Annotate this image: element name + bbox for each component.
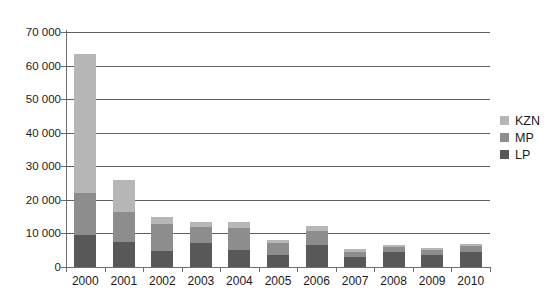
- bar-segment-lp-2004[interactable]: [228, 250, 250, 267]
- legend-item-lp[interactable]: LP: [500, 146, 555, 163]
- x-tick-label-2001: 2001: [102, 274, 146, 288]
- y-tick-mark: [61, 233, 66, 234]
- bar-2005[interactable]: [267, 32, 289, 267]
- bar-segment-mp-2005[interactable]: [267, 243, 289, 255]
- bar-segment-kzn-2007[interactable]: [344, 249, 366, 252]
- bar-segment-lp-2003[interactable]: [190, 243, 212, 267]
- y-tick-label: 10 000: [0, 227, 61, 239]
- x-tick-label-2005: 2005: [256, 274, 300, 288]
- bar-2000[interactable]: [74, 32, 96, 267]
- bar-segment-kzn-2009[interactable]: [421, 248, 443, 250]
- bar-segment-kzn-2005[interactable]: [267, 240, 289, 243]
- x-tick-mark: [259, 267, 260, 272]
- x-tick-mark: [182, 267, 183, 272]
- bar-segment-mp-2006[interactable]: [306, 231, 328, 245]
- bar-segment-lp-2001[interactable]: [113, 242, 135, 267]
- x-tick-mark: [451, 267, 452, 272]
- bar-segment-lp-2006[interactable]: [306, 245, 328, 267]
- bar-segment-lp-2005[interactable]: [267, 255, 289, 267]
- bar-segment-kzn-2002[interactable]: [151, 217, 173, 225]
- x-tick-mark: [220, 267, 221, 272]
- legend-swatch-mp: [500, 133, 509, 142]
- y-tick-label: 20 000: [0, 194, 61, 206]
- x-tick-mark: [143, 267, 144, 272]
- x-tick-mark: [490, 267, 491, 272]
- bar-segment-kzn-2010[interactable]: [460, 244, 482, 247]
- y-tick-mark: [61, 166, 66, 167]
- y-tick-label: 60 000: [0, 60, 61, 72]
- bar-segment-lp-2009[interactable]: [421, 255, 443, 267]
- x-tick-label-2003: 2003: [179, 274, 223, 288]
- x-tick-label-2009: 2009: [410, 274, 454, 288]
- y-tick-mark: [61, 99, 66, 100]
- bar-2006[interactable]: [306, 32, 328, 267]
- x-tick-label-2006: 2006: [295, 274, 339, 288]
- legend-label-lp: LP: [515, 148, 530, 162]
- gridline: [66, 267, 490, 268]
- x-tick-label-2000: 2000: [63, 274, 107, 288]
- bar-segment-kzn-2001[interactable]: [113, 180, 135, 212]
- bar-segment-lp-2002[interactable]: [151, 251, 173, 267]
- bar-2009[interactable]: [421, 32, 443, 267]
- y-tick-label: 0: [0, 261, 61, 273]
- bar-segment-lp-2010[interactable]: [460, 252, 482, 267]
- bar-2001[interactable]: [113, 32, 135, 267]
- legend-swatch-kzn: [500, 116, 509, 125]
- x-tick-label-2010: 2010: [449, 274, 493, 288]
- y-tick-label: 30 000: [0, 160, 61, 172]
- bar-2010[interactable]: [460, 32, 482, 267]
- x-tick-mark: [413, 267, 414, 272]
- y-tick-mark: [61, 66, 66, 67]
- legend-label-kzn: KZN: [515, 114, 540, 128]
- x-tick-mark: [374, 267, 375, 272]
- bar-segment-mp-2007[interactable]: [344, 252, 366, 257]
- bar-segment-kzn-2006[interactable]: [306, 226, 328, 231]
- plot-area: [66, 32, 490, 267]
- bar-segment-kzn-2003[interactable]: [190, 222, 212, 228]
- bar-segment-lp-2000[interactable]: [74, 235, 96, 267]
- y-tick-label: 50 000: [0, 93, 61, 105]
- bar-segment-lp-2008[interactable]: [383, 252, 405, 267]
- x-tick-label-2007: 2007: [333, 274, 377, 288]
- legend-item-kzn[interactable]: KZN: [500, 112, 555, 129]
- bar-segment-mp-2003[interactable]: [190, 227, 212, 242]
- bar-segment-mp-2001[interactable]: [113, 212, 135, 242]
- bar-segment-mp-2008[interactable]: [383, 247, 405, 252]
- y-tick-mark: [61, 133, 66, 134]
- y-tick-mark: [61, 200, 66, 201]
- legend-swatch-lp: [500, 150, 509, 159]
- bar-segment-mp-2009[interactable]: [421, 250, 443, 255]
- bar-2003[interactable]: [190, 32, 212, 267]
- bar-2008[interactable]: [383, 32, 405, 267]
- legend-item-mp[interactable]: MP: [500, 129, 555, 146]
- bar-segment-lp-2007[interactable]: [344, 257, 366, 267]
- stacked-bar-chart: 010 00020 00030 00040 00050 00060 00070 …: [0, 0, 555, 306]
- bar-segment-mp-2000[interactable]: [74, 193, 96, 235]
- bar-segment-kzn-2008[interactable]: [383, 245, 405, 248]
- x-tick-label-2002: 2002: [140, 274, 184, 288]
- y-tick-label: 40 000: [0, 127, 61, 139]
- x-tick-label-2008: 2008: [372, 274, 416, 288]
- y-tick-label: 70 000: [0, 26, 61, 38]
- x-tick-label-2004: 2004: [217, 274, 261, 288]
- bar-segment-mp-2010[interactable]: [460, 246, 482, 252]
- x-tick-mark: [66, 267, 67, 272]
- chart-legend: KZNMPLP: [500, 112, 555, 163]
- y-tick-mark: [61, 32, 66, 33]
- bar-segment-mp-2002[interactable]: [151, 224, 173, 250]
- bar-segment-mp-2004[interactable]: [228, 228, 250, 250]
- bar-2002[interactable]: [151, 32, 173, 267]
- bar-2007[interactable]: [344, 32, 366, 267]
- x-tick-mark: [336, 267, 337, 272]
- x-tick-mark: [105, 267, 106, 272]
- bar-2004[interactable]: [228, 32, 250, 267]
- x-tick-mark: [297, 267, 298, 272]
- bar-segment-kzn-2004[interactable]: [228, 222, 250, 228]
- legend-label-mp: MP: [515, 131, 534, 145]
- bar-segment-kzn-2000[interactable]: [74, 54, 96, 193]
